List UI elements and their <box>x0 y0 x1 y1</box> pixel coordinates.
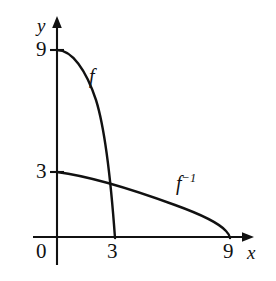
curve-label-f-inverse-exponent: −1 <box>182 171 197 185</box>
curve-f-inverse <box>57 172 230 238</box>
y-tick-label-9: 9 <box>36 39 47 60</box>
y-axis-arrowhead-icon <box>52 16 62 28</box>
x-tick-label-3: 3 <box>107 241 118 262</box>
x-axis-arrowhead-icon <box>242 232 254 242</box>
y-axis-label: y <box>37 16 45 35</box>
curve-label-f-inverse: f−1 <box>176 173 196 193</box>
x-axis-label: x <box>247 243 255 262</box>
x-tick-label-9: 9 <box>223 241 234 262</box>
y-tick-label-3: 3 <box>36 161 47 182</box>
curve-f <box>57 50 115 238</box>
curve-label-f: f <box>89 66 95 86</box>
origin-label-0: 0 <box>36 241 47 262</box>
function-inverse-graph-figure: y x 9 3 0 3 9 f f−1 <box>0 0 276 281</box>
